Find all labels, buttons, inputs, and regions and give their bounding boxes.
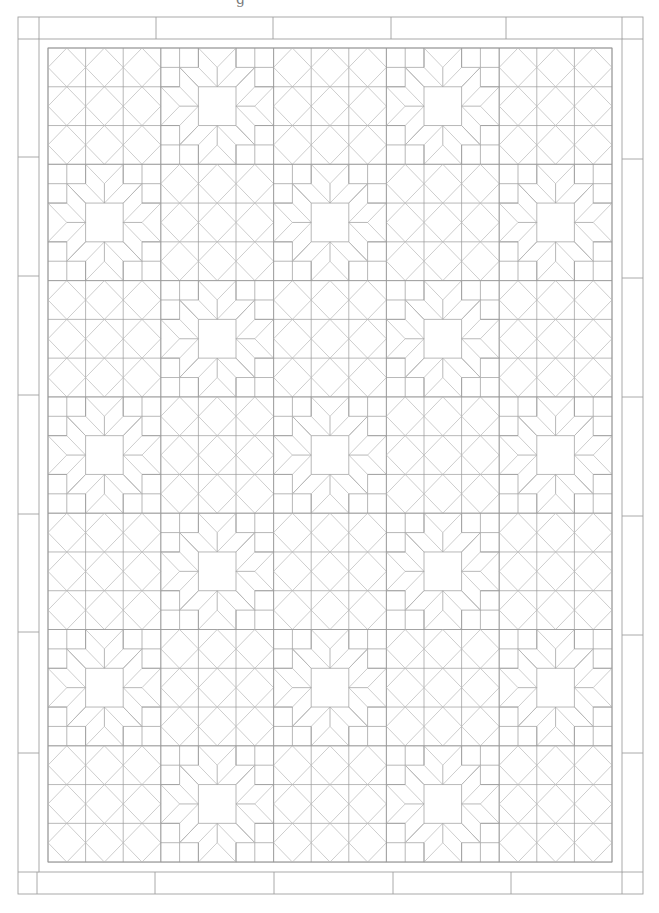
diamond-block [499, 281, 612, 397]
diamond-block [386, 397, 499, 513]
star-block [386, 746, 499, 862]
star-block [499, 630, 612, 746]
diamond-block [386, 630, 499, 746]
diamond-block [274, 48, 387, 164]
quilt-diagram [0, 0, 659, 913]
star-block [499, 397, 612, 513]
star-block [48, 397, 161, 513]
star-block [386, 513, 499, 629]
star-block [48, 164, 161, 280]
diamond-block [499, 746, 612, 862]
diamond-block [48, 281, 161, 397]
quilt-blocks [48, 48, 612, 862]
diamond-block [499, 48, 612, 164]
outer-border [18, 17, 643, 894]
diamond-block [161, 397, 274, 513]
star-block [274, 164, 387, 280]
diamond-block [274, 746, 387, 862]
star-block [499, 164, 612, 280]
diamond-block [48, 513, 161, 629]
diamond-block [161, 630, 274, 746]
diamond-block [274, 513, 387, 629]
star-block [161, 281, 274, 397]
diamond-block [48, 48, 161, 164]
star-block [386, 48, 499, 164]
diamond-block [274, 281, 387, 397]
diamond-block [161, 164, 274, 280]
star-block [274, 630, 387, 746]
star-block [48, 630, 161, 746]
star-block [161, 48, 274, 164]
star-block [274, 397, 387, 513]
diamond-block [499, 513, 612, 629]
star-block [386, 281, 499, 397]
diamond-block [48, 746, 161, 862]
outer-border-frame [18, 17, 643, 894]
diamond-block [386, 164, 499, 280]
star-block [161, 746, 274, 862]
star-block [161, 513, 274, 629]
